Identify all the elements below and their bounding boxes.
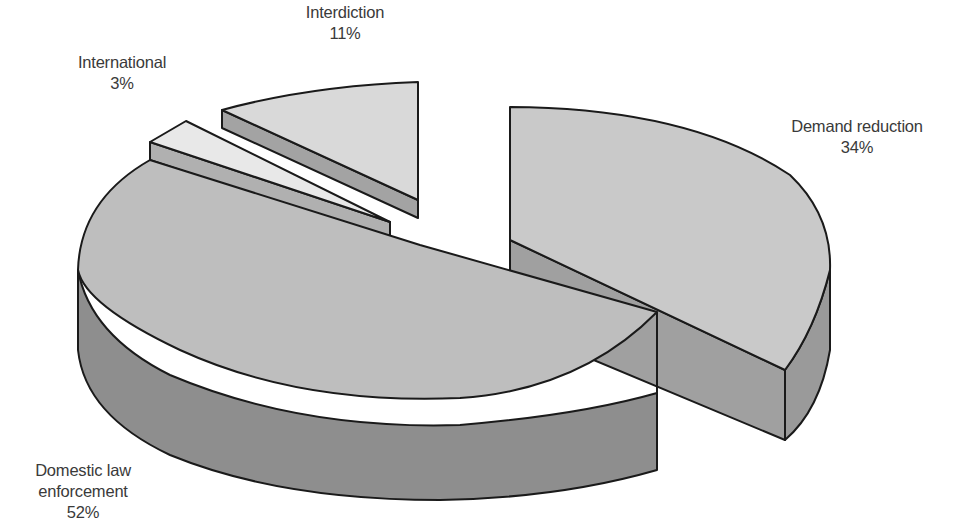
label-interdiction: Interdiction 11%	[285, 2, 405, 44]
label-international-name: International	[62, 52, 182, 73]
label-demand-reduction: Demand reduction 34%	[762, 116, 952, 158]
label-international-pct: 3%	[62, 73, 182, 94]
label-domestic-law-enforcement: Domestic law enforcement 52%	[8, 460, 158, 523]
label-interdiction-name: Interdiction	[285, 2, 405, 23]
label-domestic-pct: 52%	[8, 502, 158, 523]
label-international: International 3%	[62, 52, 182, 94]
label-interdiction-pct: 11%	[285, 23, 405, 44]
label-domestic-line1: Domestic law	[8, 460, 158, 481]
label-domestic-line2: enforcement	[8, 481, 158, 502]
label-demand-name: Demand reduction	[762, 116, 952, 137]
label-demand-pct: 34%	[762, 137, 952, 158]
